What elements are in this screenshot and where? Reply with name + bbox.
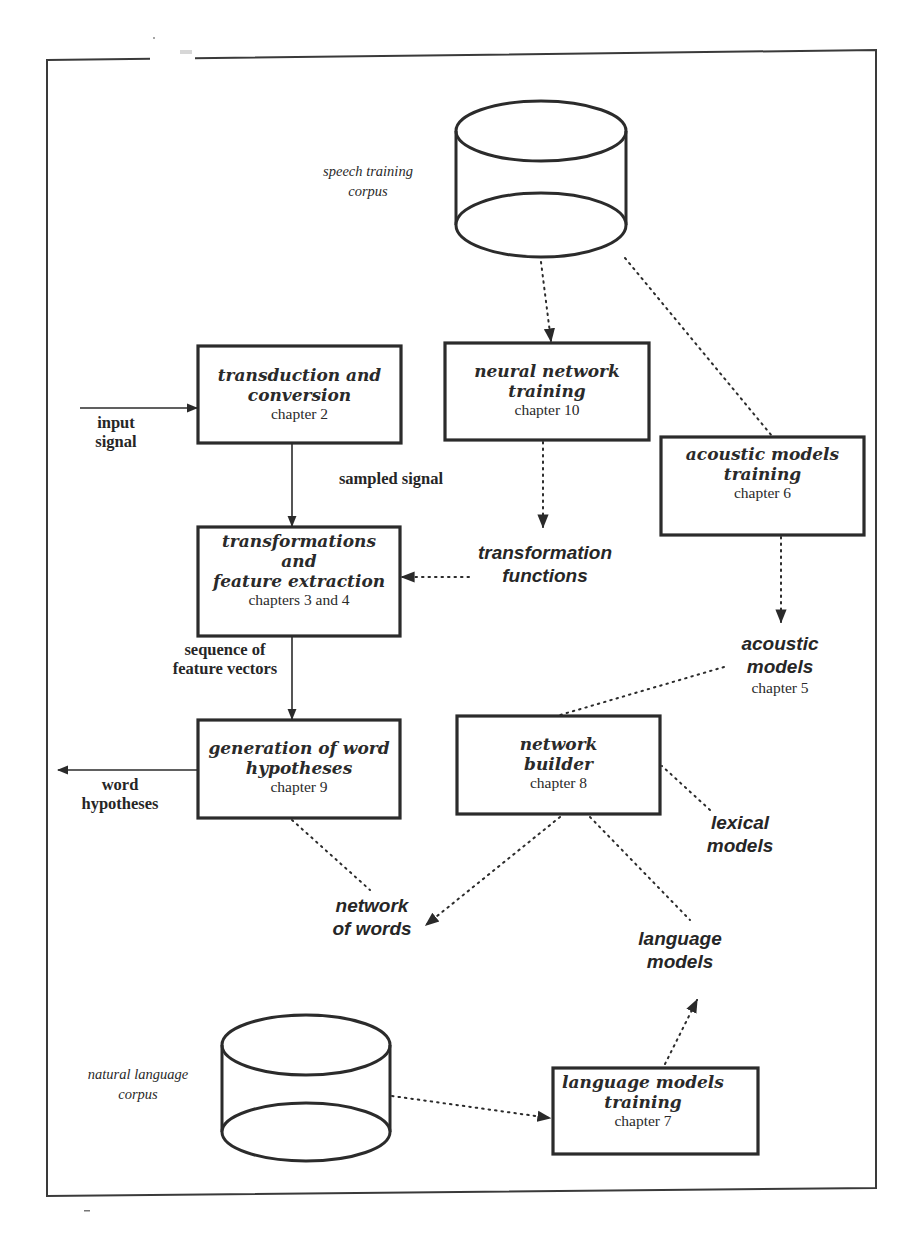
label-line: feature vectors bbox=[160, 660, 290, 679]
label-line: input bbox=[86, 414, 146, 433]
label-language-models: language models bbox=[620, 928, 740, 974]
box-title: feature extraction bbox=[213, 571, 385, 591]
box-chapter: chapter 7 bbox=[614, 1112, 671, 1130]
dotted-corpus-to-neural bbox=[541, 262, 551, 341]
label-word-hypotheses: word hypotheses bbox=[70, 776, 170, 814]
nl-corpus-label: natural language corpus bbox=[68, 1065, 208, 1104]
label-sampled-signal: sampled signal bbox=[326, 470, 456, 489]
label-feature-vectors: sequence of feature vectors bbox=[160, 641, 290, 679]
label-line: of words bbox=[322, 918, 422, 941]
scan-speck bbox=[84, 1210, 90, 1212]
box-title: generation of word bbox=[208, 738, 389, 758]
box-title: transformations bbox=[222, 531, 376, 551]
label-line: sampled signal bbox=[326, 470, 456, 489]
dotted-nl-corpus-to-lm-training bbox=[392, 1096, 550, 1118]
dotted-lexical-to-builder bbox=[662, 766, 710, 810]
speech-corpus-cylinder-icon bbox=[456, 101, 626, 257]
label-line: functions bbox=[470, 565, 620, 588]
label-line: word bbox=[70, 776, 170, 795]
speech-corpus-label-line2: corpus bbox=[303, 182, 433, 202]
dotted-generation-to-network-of-words bbox=[292, 820, 370, 890]
diagram-canvas bbox=[0, 0, 918, 1233]
box-chapter: chapter 10 bbox=[515, 401, 580, 419]
box-title: transduction and bbox=[218, 365, 382, 385]
dotted-acoustic-models-to-builder bbox=[560, 667, 724, 715]
label-line: models bbox=[730, 656, 830, 679]
box-acoustic-training-text: acoustic models training chapter 6 bbox=[661, 444, 864, 502]
dotted-builder-to-language-models bbox=[590, 817, 690, 920]
box-title: network bbox=[520, 734, 598, 754]
box-title: training bbox=[508, 381, 585, 401]
box-title: training bbox=[604, 1092, 681, 1112]
label-transformation-functions: transformation functions bbox=[470, 542, 620, 588]
label-acoustic-models: acoustic models chapter 5 bbox=[730, 633, 830, 697]
nl-corpus-label-line2: corpus bbox=[68, 1085, 208, 1105]
dotted-lm-training-to-language-models bbox=[665, 1000, 697, 1064]
label-line: models bbox=[620, 951, 740, 974]
box-title: hypotheses bbox=[246, 758, 352, 778]
label-line: language bbox=[620, 928, 740, 951]
box-generation-text: generation of word hypotheses chapter 9 bbox=[198, 738, 400, 796]
label-line: transformation bbox=[470, 542, 620, 565]
scan-speck bbox=[153, 37, 155, 39]
box-title: and bbox=[281, 551, 316, 571]
box-title: language models bbox=[562, 1072, 724, 1092]
box-chapter: chapter 6 bbox=[734, 484, 791, 502]
box-chapter: chapters 3 and 4 bbox=[248, 591, 349, 609]
speech-corpus-label-line1: speech training bbox=[303, 162, 433, 182]
speech-corpus-label: speech training corpus bbox=[303, 162, 433, 201]
box-title: acoustic models bbox=[686, 444, 839, 464]
box-title: conversion bbox=[248, 385, 351, 405]
box-title: training bbox=[724, 464, 801, 484]
label-line: sequence of bbox=[160, 641, 290, 660]
box-transduction-text: transduction and conversion chapter 2 bbox=[198, 365, 401, 423]
box-neural-text: neural network training chapter 10 bbox=[445, 361, 649, 419]
label-line: signal bbox=[86, 433, 146, 452]
box-network-builder-text: network builder chapter 8 bbox=[457, 734, 660, 792]
label-chapter: chapter 5 bbox=[730, 679, 830, 698]
label-input-signal: input signal bbox=[86, 414, 146, 452]
box-title: neural network bbox=[474, 361, 620, 381]
nl-corpus-label-line1: natural language bbox=[68, 1065, 208, 1085]
box-lm-training-text: language models training chapter 7 bbox=[553, 1072, 733, 1130]
dotted-builder-to-network-of-words bbox=[426, 817, 560, 925]
box-chapter: chapter 8 bbox=[530, 774, 587, 792]
label-line: acoustic bbox=[730, 633, 830, 656]
box-transformations-text: transformations and feature extraction c… bbox=[198, 531, 400, 609]
nl-corpus-cylinder-icon bbox=[222, 1015, 390, 1161]
box-chapter: chapter 9 bbox=[270, 778, 327, 796]
label-network-of-words: network of words bbox=[322, 895, 422, 941]
label-line: network bbox=[322, 895, 422, 918]
box-chapter: chapter 2 bbox=[271, 405, 328, 423]
scan-artifact bbox=[180, 50, 192, 54]
label-line: models bbox=[690, 835, 790, 858]
label-line: lexical bbox=[690, 812, 790, 835]
label-lexical-models: lexical models bbox=[690, 812, 790, 858]
box-title: builder bbox=[524, 754, 593, 774]
label-line: hypotheses bbox=[70, 795, 170, 814]
